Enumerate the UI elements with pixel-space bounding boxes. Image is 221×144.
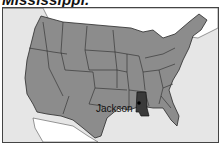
us-map [3, 8, 218, 142]
jackson-marker-icon [137, 101, 141, 105]
jackson-label: Jackson [96, 103, 133, 114]
map-frame: Jackson [2, 7, 219, 143]
us-land [25, 14, 207, 138]
